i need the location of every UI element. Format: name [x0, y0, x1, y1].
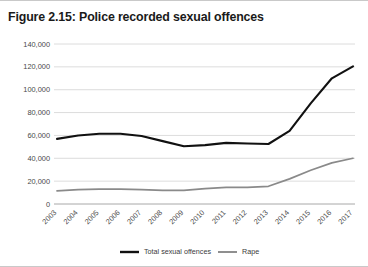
x-axis-tick-label: 2017	[336, 208, 354, 226]
x-axis-tick-label: 2014	[273, 208, 291, 226]
x-axis-tick-label: 2009	[167, 208, 185, 226]
x-axis-tick-label: 2007	[125, 208, 143, 226]
y-axis-tick-label: 140,000	[23, 40, 50, 49]
series-line-total-sexual-offences	[57, 66, 353, 146]
x-axis-tick-label: 2010	[188, 208, 206, 226]
y-axis-tick-label: 80,000	[27, 108, 50, 117]
x-axis-tick-label: 2003	[40, 208, 58, 226]
x-axis-tick-label: 2011	[210, 208, 228, 226]
legend-group: Total sexual offencesRape	[120, 247, 259, 256]
x-axis-tick-label: 2012	[231, 208, 249, 226]
y-axis-tick-label: 40,000	[27, 154, 50, 163]
y-axis-ticks-group: 020,00040,00060,00080,000100,000120,0001…	[23, 40, 50, 209]
x-axis-ticks-group: 2003200420052006200720082009201020112012…	[40, 208, 354, 226]
figure-container: Figure 2.15: Police recorded sexual offe…	[0, 0, 368, 267]
y-axis-tick-label: 20,000	[27, 177, 50, 186]
chart-plot-area: 020,00040,00060,00080,000100,000120,0001…	[0, 1, 368, 267]
x-axis-tick-label: 2004	[62, 208, 80, 226]
gridlines-group	[54, 44, 355, 204]
series-line-rape	[57, 158, 353, 191]
line-chart-svg: 020,00040,00060,00080,000100,000120,0001…	[0, 1, 368, 267]
x-axis-tick-label: 2016	[315, 208, 333, 226]
x-axis-tick-label: 2013	[252, 208, 270, 226]
x-axis-tick-label: 2006	[104, 208, 122, 226]
y-axis-tick-label: 100,000	[23, 85, 50, 94]
x-axis-tick-label: 2008	[146, 208, 164, 226]
data-series-group	[57, 66, 353, 191]
x-axis-tick-label: 2015	[294, 208, 312, 226]
y-axis-tick-label: 0	[46, 200, 50, 209]
y-axis-tick-label: 60,000	[27, 131, 50, 140]
legend-label: Rape	[242, 247, 259, 256]
y-axis-tick-label: 120,000	[23, 62, 50, 71]
legend-label: Total sexual offences	[144, 247, 211, 256]
x-axis-tick-label: 2005	[83, 208, 101, 226]
